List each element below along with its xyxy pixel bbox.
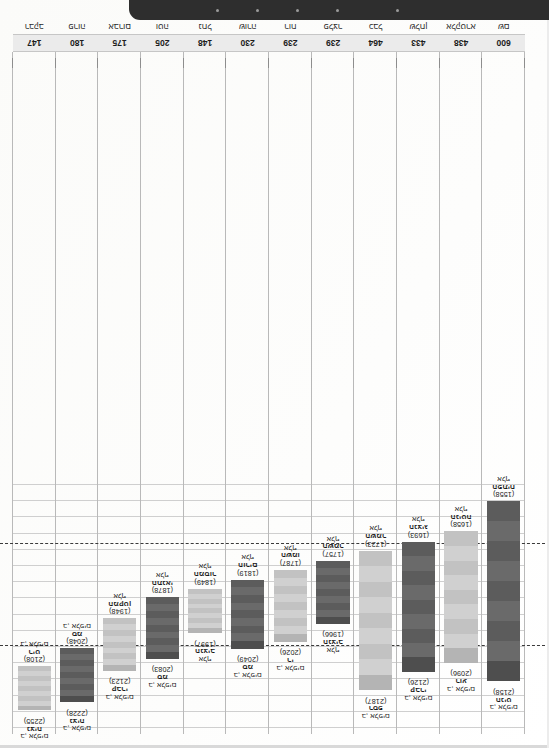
bar-band — [274, 578, 307, 586]
footer-dot — [216, 9, 219, 12]
bar-band — [402, 571, 435, 585]
axis-tick — [524, 58, 525, 68]
bar-band — [316, 596, 349, 603]
bar-low-label-line1: אלף — [216, 554, 280, 562]
bar-high-label-line2: הנציב — [171, 648, 239, 656]
bar-low-label-line1: אלף — [130, 571, 194, 579]
bar-high-label-value: (2126) — [384, 679, 452, 687]
bar-band — [402, 585, 435, 599]
bar-high-label-value: (2255) — [0, 717, 68, 725]
vertical-guide — [140, 52, 141, 734]
bar-low-label-line1: אלף — [472, 475, 536, 483]
bar-band — [487, 581, 520, 601]
axis-category-cell: וטה — [141, 19, 184, 35]
bar-band — [231, 610, 264, 618]
bar-band — [18, 696, 51, 701]
bar-band — [18, 681, 51, 686]
bar-band — [231, 626, 264, 634]
bar-band — [103, 653, 136, 659]
bar-high-label-line2: קברי — [86, 685, 154, 693]
vertical-guide — [439, 52, 440, 734]
vertical-guide — [225, 52, 226, 734]
bar-band — [188, 613, 221, 618]
vertical-guide — [396, 52, 397, 734]
vertical-guide — [12, 52, 13, 734]
axis-tick — [225, 58, 226, 68]
bar-band — [274, 586, 307, 594]
range-bar — [316, 561, 349, 624]
bar-high-label-line1: ב, אלפים — [214, 671, 282, 679]
axis-category-cell: אלקטרא — [440, 19, 483, 35]
bar-low-label-line1: ב, אלפים — [45, 622, 109, 630]
bar-band — [18, 691, 51, 696]
scanned-page: ב, אלפיםהניט(2158)(1558)הפתיחאלףב, אלפים… — [0, 0, 549, 748]
footer-dot — [336, 9, 339, 12]
range-bar — [402, 542, 435, 672]
bar-band — [188, 628, 221, 633]
bar-band — [487, 601, 520, 621]
axis-tick — [268, 58, 269, 68]
bar-band — [316, 610, 349, 617]
gridline — [13, 500, 525, 501]
axis-category-cell: כבל — [354, 19, 397, 35]
bar-band — [274, 610, 307, 618]
bar-band — [103, 648, 136, 654]
axis-category-cell: אברום — [98, 19, 141, 35]
bar-band — [316, 575, 349, 582]
axis-count-cell: 239 — [269, 35, 312, 51]
axis-tick — [396, 58, 397, 68]
axis-tick — [439, 58, 440, 68]
bar-band — [146, 625, 179, 632]
axis-ticks — [13, 58, 525, 68]
bar-band — [487, 561, 520, 581]
bar-low-label: (1878)התנאיאלף — [130, 571, 194, 594]
bar-high-label: ב, אלפיםרספ(2187) — [342, 697, 410, 720]
page-footer-tab — [129, 0, 549, 20]
bar-low-label: (2108)ריטב, אלפים — [2, 640, 66, 663]
bar-band — [487, 541, 520, 561]
axis-name-row: שםאלקטראשלחןכבלפלצררוחשורהנחלוטהאברוםפרו… — [13, 19, 525, 35]
bar-low-label-line2: התנאי — [130, 579, 194, 587]
bar-band — [18, 666, 51, 671]
bar-low-label-line1: אלף — [88, 592, 152, 600]
bar-low-label: (1948)המקטןאלף — [88, 592, 152, 615]
bar-band — [231, 595, 264, 603]
bar-band — [316, 603, 349, 610]
bar-band — [316, 568, 349, 575]
axis-tick — [481, 58, 482, 68]
axis-count-cell: 438 — [440, 35, 483, 51]
bar-band — [188, 608, 221, 613]
vertical-guide — [524, 52, 525, 734]
axis-category-cell: שלחן — [397, 19, 440, 35]
bar-band — [444, 590, 477, 605]
bar-band — [103, 659, 136, 665]
bar-band — [316, 582, 349, 589]
axis-category-cell: שורה — [226, 19, 269, 35]
bar-high-label-line2: רספ — [342, 705, 410, 713]
bar-high-label-line1: ב, אלפים — [342, 712, 410, 720]
bar-high-label-line2: הנציב — [299, 638, 367, 646]
bar-band — [359, 613, 392, 628]
range-bar — [188, 589, 221, 633]
axis-count-cell: 433 — [397, 35, 440, 51]
bar-band — [188, 618, 221, 623]
axis-tick — [140, 58, 141, 68]
bar-band — [402, 600, 435, 614]
bar-low-label-value: (2108) — [2, 656, 66, 664]
bar-band — [444, 575, 477, 590]
axis-count-cell: 205 — [141, 35, 184, 51]
axis-count-cell: 464 — [354, 35, 397, 51]
chart-category-axis: 600438433464239239230148205175180147 שםא… — [13, 14, 525, 58]
bar-low-label-line1: אלף — [344, 525, 408, 533]
axis-count-cell: 600 — [482, 35, 525, 51]
bar-low-label-line2: סמ — [45, 630, 109, 638]
bar-low-label-line1: אלף — [386, 516, 450, 524]
bar-band — [359, 659, 392, 674]
axis-category-cell: שם — [482, 19, 525, 35]
bar-high-label-value: (2083) — [128, 666, 196, 674]
bar-band — [316, 617, 349, 624]
bar-high-label-line2: הניט — [470, 696, 538, 704]
bar-low-label-line2: המקטן — [88, 600, 152, 608]
vertical-guide — [183, 52, 184, 734]
gridline — [13, 484, 525, 485]
